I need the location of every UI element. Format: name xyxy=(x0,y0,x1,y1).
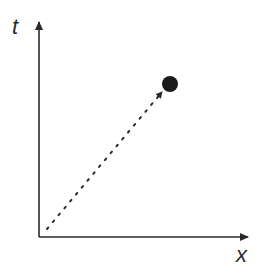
x-axis-label: x xyxy=(235,242,248,267)
event-dot xyxy=(162,76,178,92)
worldline-dotted xyxy=(47,92,162,229)
spacetime-diagram: t x xyxy=(0,0,262,274)
t-axis-label: t xyxy=(12,14,19,39)
